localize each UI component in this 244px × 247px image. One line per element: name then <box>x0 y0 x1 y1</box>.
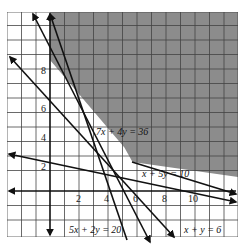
label-7x-4y-36: 7x + 4y = 36 <box>96 126 148 137</box>
y-tick-2: 2 <box>41 161 46 172</box>
x-tick-6: 6 <box>133 193 138 204</box>
y-tick-4: 4 <box>41 132 46 143</box>
y-tick-8: 8 <box>41 65 46 76</box>
x-tick-10: 10 <box>188 193 198 204</box>
x-tick-8: 8 <box>162 193 167 204</box>
label-x-5y-10: x + 5y = 10 <box>141 168 189 179</box>
label-5x-2y-20: 5x + 2y = 20 <box>69 224 121 235</box>
x-tick-2: 2 <box>76 193 81 204</box>
label-x-y-6: x + y = 6 <box>183 224 221 235</box>
x-tick-4: 4 <box>104 193 109 204</box>
linear-inequalities-graph: 2 4 6 8 10 2 4 6 8 7x + 4y = 36 x + 5y =… <box>0 0 244 247</box>
y-tick-6: 6 <box>41 103 46 114</box>
